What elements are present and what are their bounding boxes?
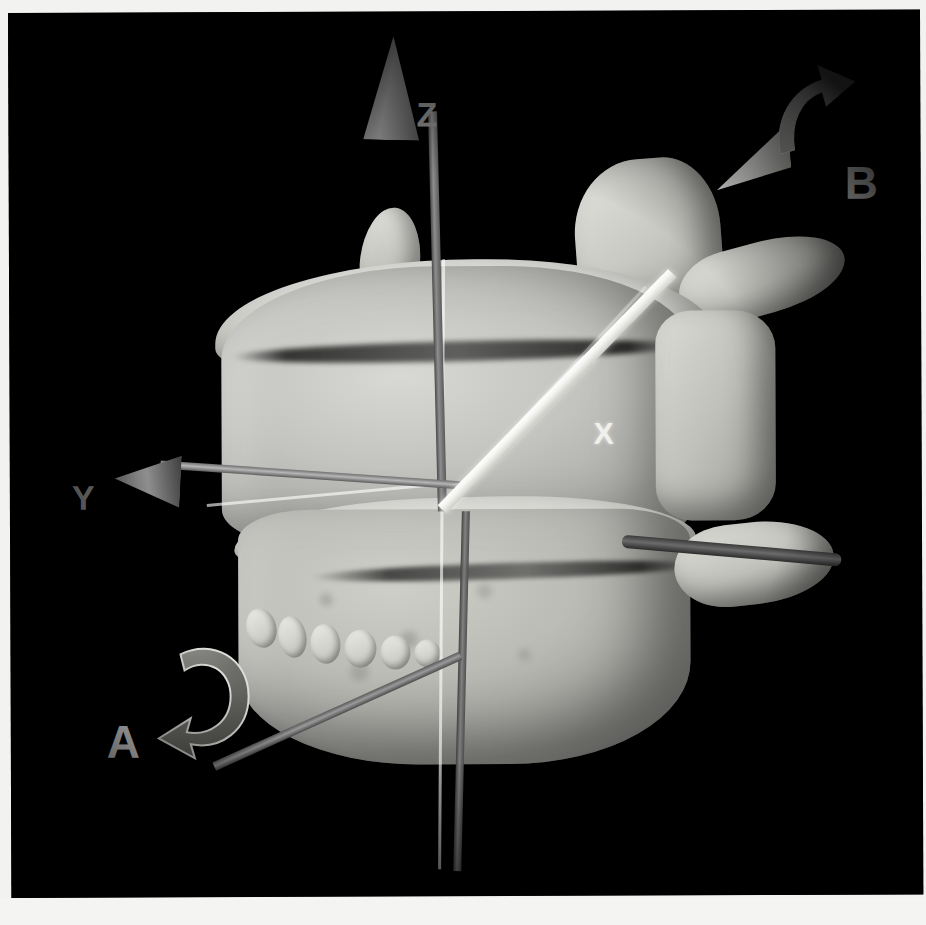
axis-label-y: Y xyxy=(72,481,95,515)
axis-label-z: Z xyxy=(416,97,437,131)
z-axis-arrowhead xyxy=(363,36,421,141)
articular-pillar xyxy=(655,310,776,520)
ct-render-canvas: Z Y X A B xyxy=(8,9,923,897)
trabecular-texture xyxy=(260,551,591,712)
rotation-label-b: B xyxy=(845,160,878,206)
osteophyte-bump xyxy=(344,630,376,668)
y-axis-arrowhead xyxy=(114,453,182,508)
figure-container: Z Y X A B xyxy=(0,0,926,925)
rotation-arrow-a-icon xyxy=(150,632,262,760)
rotation-arrow-b-icon xyxy=(764,62,874,172)
page-bottom-margin xyxy=(0,898,926,925)
osteophyte-bump xyxy=(380,635,410,669)
axis-label-x: X xyxy=(594,419,614,449)
rotation-label-a: A xyxy=(107,718,140,764)
